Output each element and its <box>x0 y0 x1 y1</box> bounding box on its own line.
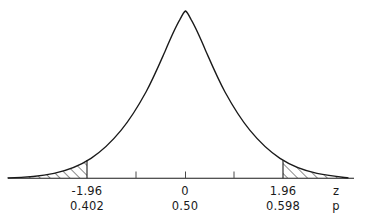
normal-distribution-figure: -1.96 0 1.96 z 0.402 0.50 0.598 p <box>0 0 370 222</box>
right-tail-hatch-fill <box>270 150 370 180</box>
distribution-plot <box>0 0 370 222</box>
left-tail-hatch-fill <box>0 150 100 180</box>
right-tail-shaded-region <box>270 150 370 180</box>
axis-tick-marks <box>136 172 234 179</box>
left-tail-shaded-region <box>0 150 100 180</box>
normal-curve <box>8 11 348 178</box>
